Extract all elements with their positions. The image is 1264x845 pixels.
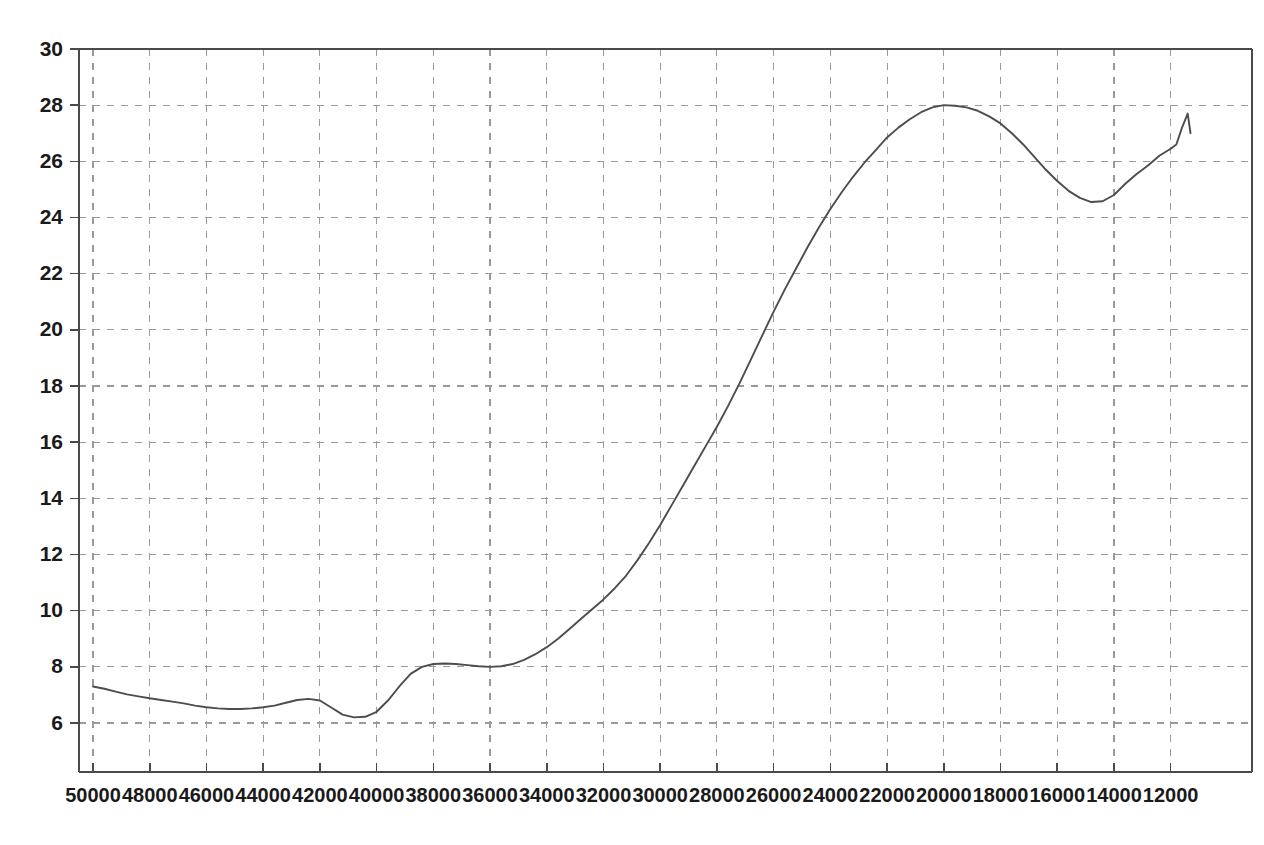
x-axis-tick-label: 22000: [859, 784, 915, 806]
x-axis-tick-label: 36000: [462, 784, 518, 806]
x-axis-tick-label: 28000: [689, 784, 745, 806]
chart-container: 681012141618202224262830 500004800046000…: [0, 0, 1264, 845]
y-axis-tick-label: 18: [40, 374, 64, 397]
x-axis-tick-label: 12000: [1143, 784, 1199, 806]
y-axis-tick-label: 6: [51, 711, 63, 734]
x-axis-tick-labels: 5000048000460004400042000400003800036000…: [65, 784, 1198, 806]
x-axis-tick-label: 34000: [519, 784, 575, 806]
grid-lines: [79, 49, 1252, 772]
x-axis-tick-label: 50000: [65, 784, 121, 806]
y-axis-tick-label: 26: [40, 149, 63, 172]
line-chart: 681012141618202224262830 500004800046000…: [0, 0, 1264, 845]
y-axis-tick-label: 12: [40, 542, 63, 565]
y-axis-tick-label: 10: [40, 598, 63, 621]
y-axis-tick-label: 16: [40, 430, 63, 453]
data-series: [93, 105, 1191, 717]
x-axis-tick-label: 16000: [1029, 784, 1085, 806]
tick-marks: [70, 49, 1171, 772]
x-axis-tick-label: 24000: [803, 784, 859, 806]
x-axis-tick-label: 14000: [1086, 784, 1142, 806]
x-axis-tick-label: 48000: [122, 784, 178, 806]
y-axis-tick-label: 14: [40, 486, 64, 509]
x-axis-tick-label: 30000: [632, 784, 688, 806]
y-axis-tick-labels: 681012141618202224262830: [40, 37, 64, 734]
x-axis-tick-label: 40000: [349, 784, 405, 806]
axis-lines: [79, 49, 1252, 772]
x-axis-tick-label: 46000: [179, 784, 235, 806]
data-line-series-1: [93, 105, 1191, 717]
x-axis-tick-label: 26000: [746, 784, 802, 806]
x-axis-tick-label: 32000: [576, 784, 632, 806]
y-axis-tick-label: 30: [40, 37, 63, 60]
y-axis-tick-label: 24: [40, 205, 64, 228]
y-axis-tick-label: 8: [51, 654, 63, 677]
x-axis-tick-label: 38000: [406, 784, 462, 806]
y-axis-tick-label: 22: [40, 261, 63, 284]
x-axis-tick-label: 20000: [916, 784, 972, 806]
x-axis-tick-label: 44000: [235, 784, 291, 806]
x-axis-tick-label: 18000: [973, 784, 1029, 806]
y-axis-tick-label: 28: [40, 93, 64, 116]
y-axis-tick-label: 20: [40, 317, 63, 340]
x-axis-tick-label: 42000: [292, 784, 348, 806]
